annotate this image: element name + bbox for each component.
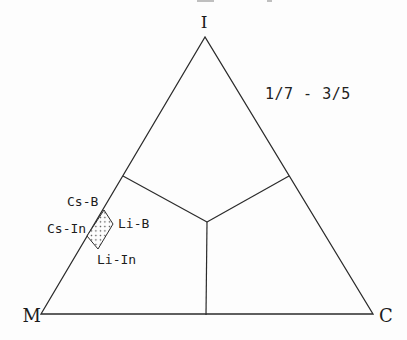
vertex-label-i: I — [201, 12, 208, 32]
region-boundary-bottom — [206, 222, 207, 315]
region-boundary-right — [207, 176, 289, 222]
ternary-diagram-svg: I M C 1/7 - 3/5 Cs-B Cs-In Li-B Li-In — [0, 0, 407, 340]
compound-region-diamond — [87, 210, 113, 249]
ratio-annotation: 1/7 - 3/5 — [265, 85, 351, 103]
compound-label-cs-in: Cs-In — [47, 221, 86, 236]
ternary-figure: I M C 1/7 - 3/5 Cs-B Cs-In Li-B Li-In — [0, 0, 407, 340]
vertex-label-m: M — [23, 305, 41, 326]
vertex-label-c: C — [379, 305, 393, 326]
compound-label-li-b: Li-B — [118, 216, 149, 231]
compound-label-cs-b: Cs-B — [67, 194, 98, 209]
compound-label-li-in: Li-In — [97, 252, 136, 267]
